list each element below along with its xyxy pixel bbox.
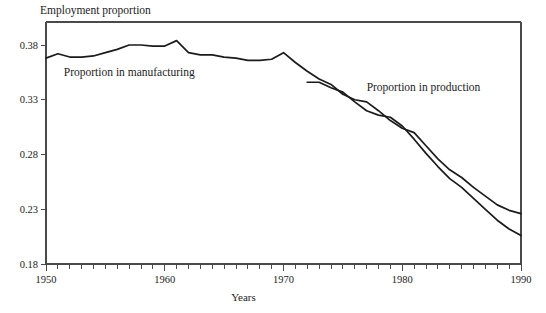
x-tick-label: 1980 xyxy=(392,274,413,285)
y-tick-label: 0.38 xyxy=(20,40,38,51)
x-tick-label: 1950 xyxy=(36,274,57,285)
chart-figure: 0.180.230.280.330.3819501960197019801990… xyxy=(0,0,546,313)
y-tick-label: 0.18 xyxy=(20,259,38,270)
y-tick-label: 0.28 xyxy=(20,149,38,160)
series-annotation-2: Proportion in production xyxy=(367,81,481,94)
x-axis-title: Years xyxy=(231,291,256,303)
x-tick-label: 1990 xyxy=(511,274,532,285)
series-annotation-1: Proportion in manufacturing xyxy=(64,66,195,79)
y-tick-label: 0.33 xyxy=(20,94,38,105)
y-tick-label: 0.23 xyxy=(20,204,38,215)
chart-title: Employment proportion xyxy=(40,4,151,17)
series-line-2 xyxy=(307,82,521,235)
x-tick-label: 1970 xyxy=(273,274,294,285)
x-tick-label: 1960 xyxy=(154,274,175,285)
